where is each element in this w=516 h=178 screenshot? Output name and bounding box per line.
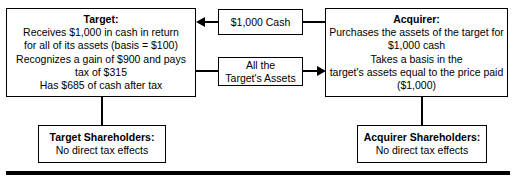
target-box-line-3: Recognizes a gain of $900 and pays — [16, 53, 186, 66]
cash-flow-box[interactable]: $1,000 Cash — [218, 9, 303, 35]
target-shareholders-box[interactable]: Target Shareholders: No direct tax effec… — [38, 125, 166, 163]
target-box[interactable]: Target: Receives $1,000 in cash in retur… — [6, 8, 196, 97]
acquirer-to-shareholders-connector — [421, 96, 423, 126]
acquirer-box-line-2: $1,000 cash — [388, 39, 445, 52]
cash-flow-left-arrowhead — [196, 17, 205, 27]
cash-flow-label: $1,000 Cash — [231, 16, 291, 29]
cash-flow-line-right-segment — [303, 21, 326, 23]
acquirer-box-title: Acquirer: — [393, 13, 440, 26]
cash-flow-line-left-segment — [203, 21, 219, 23]
assets-flow-label-line-2: Target's Assets — [225, 72, 295, 85]
assets-flow-label-line-1: All the — [246, 59, 275, 72]
acquirer-box-line-4: target's assets equal to the price paid — [330, 66, 504, 79]
target-box-line-4: tax of $315 — [75, 66, 127, 79]
target-shareholders-title: Target Shareholders: — [50, 131, 155, 144]
acquirer-box-line-5: ($1,000) — [397, 79, 436, 92]
assets-flow-box[interactable]: All the Target's Assets — [218, 57, 303, 86]
target-box-line-1: Receives $1,000 in cash in return — [23, 26, 179, 39]
acquirer-box-line-1: Purchases the assets of the target for — [329, 26, 504, 39]
target-to-shareholders-connector — [101, 96, 103, 126]
assets-flow-line-right-segment — [303, 70, 318, 72]
acquirer-shareholders-box[interactable]: Acquirer Shareholders: No direct tax eff… — [357, 125, 487, 163]
acquirer-shareholders-title: Acquirer Shareholders: — [364, 131, 481, 144]
acquirer-box[interactable]: Acquirer: Purchases the assets of the ta… — [325, 8, 508, 97]
target-box-title: Target: — [84, 13, 119, 26]
target-box-line-5: Has $685 of cash after tax — [40, 79, 163, 92]
target-box-line-2: for all of its assets (basis = $100) — [24, 39, 178, 52]
target-shareholders-line-1: No direct tax effects — [56, 144, 149, 157]
acquirer-box-line-3: Takes a basis in the — [370, 53, 462, 66]
acquirer-shareholders-line-1: No direct tax effects — [376, 144, 469, 157]
asset-acquisition-diagram: Target: Receives $1,000 in cash in retur… — [0, 0, 516, 178]
assets-flow-line-left-segment — [196, 70, 219, 72]
bottom-divider-rule — [6, 171, 510, 175]
